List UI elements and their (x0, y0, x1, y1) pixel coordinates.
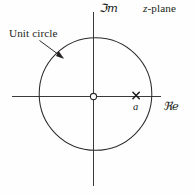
zero-marker-origin (90, 93, 96, 99)
unit-circle-annotation-arrow (40, 41, 64, 59)
pole-label-a: a (133, 102, 138, 113)
unit-circle-annotation-label: Unit circle (9, 28, 58, 39)
imaginary-axis-label: ℑm (99, 3, 118, 15)
z-plane-figure: Unit circle z-plane ℑm ℜe a (0, 0, 194, 195)
real-axis-label: ℜe (163, 101, 179, 113)
z-plane-title-suffix: -plane (147, 2, 176, 14)
pole-marker-a (133, 92, 139, 98)
z-plane-title: z-plane (143, 3, 176, 14)
